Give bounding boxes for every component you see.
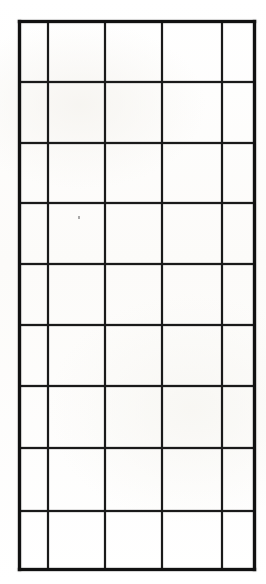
- grid-cell[interactable]: [106, 83, 161, 142]
- grid-cell[interactable]: [49, 387, 104, 447]
- grid-cell[interactable]: [223, 144, 254, 202]
- grid-cell[interactable]: [106, 144, 161, 202]
- grid-cell[interactable]: [49, 326, 104, 385]
- grid-cell[interactable]: [223, 204, 254, 263]
- grid-cell[interactable]: [223, 449, 254, 510]
- grid-cell[interactable]: [223, 265, 254, 324]
- grid-cell[interactable]: [20, 265, 47, 324]
- grid-cell[interactable]: [20, 387, 47, 447]
- grid-cell[interactable]: [20, 22, 47, 81]
- grid-cell[interactable]: [20, 512, 47, 569]
- grid-cell[interactable]: [49, 144, 104, 202]
- grid-cell[interactable]: [163, 144, 221, 202]
- grid-cell[interactable]: [163, 326, 221, 385]
- grid-cell[interactable]: [223, 83, 254, 142]
- grid-cell[interactable]: [49, 449, 104, 510]
- grid-cell[interactable]: [106, 22, 161, 81]
- scanned-page: [0, 0, 266, 584]
- grid-cell[interactable]: [163, 387, 221, 447]
- grid-cell[interactable]: [20, 449, 47, 510]
- grid-cell[interactable]: [20, 144, 47, 202]
- grid-cell[interactable]: [163, 83, 221, 142]
- grid-cell[interactable]: [20, 326, 47, 385]
- grid-cell[interactable]: [223, 387, 254, 447]
- grid-cell[interactable]: [223, 512, 254, 569]
- grid-cell[interactable]: [49, 512, 104, 569]
- grid-cell[interactable]: [106, 265, 161, 324]
- grid-cell[interactable]: [49, 265, 104, 324]
- grid-cell[interactable]: [49, 83, 104, 142]
- grid-cell[interactable]: [223, 326, 254, 385]
- grid-cell[interactable]: [106, 449, 161, 510]
- grid-cell[interactable]: [163, 22, 221, 81]
- grid-cell[interactable]: [163, 449, 221, 510]
- grid-cell[interactable]: [20, 83, 47, 142]
- grid-cell[interactable]: [49, 22, 104, 81]
- grid-cell[interactable]: [49, 204, 104, 263]
- grid-cell[interactable]: [163, 265, 221, 324]
- grid-cell[interactable]: [106, 326, 161, 385]
- grid-cell[interactable]: [223, 22, 254, 81]
- grid-cell[interactable]: [20, 204, 47, 263]
- grid-cell[interactable]: [106, 387, 161, 447]
- grid-cell[interactable]: [163, 204, 221, 263]
- grid-cell[interactable]: [106, 204, 161, 263]
- grid-cell[interactable]: [163, 512, 221, 569]
- grid-cell[interactable]: [106, 512, 161, 569]
